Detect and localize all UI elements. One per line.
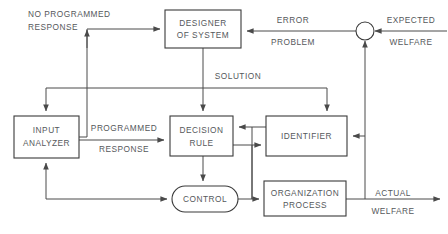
- edges-layer: [46, 29, 447, 199]
- edge-solution-bus-to-input-analyzer: [46, 88, 327, 111]
- decision-rule-box[interactable]: [170, 116, 233, 156]
- control-label: CONTROL: [183, 194, 227, 204]
- node-decision-rule[interactable]: DECISION RULE: [170, 116, 233, 156]
- designer-of-system-box[interactable]: [165, 10, 241, 48]
- decision-rule-label-line2: RULE: [189, 138, 213, 148]
- node-input-analyzer[interactable]: INPUT ANALYZER: [14, 116, 79, 158]
- node-identifier[interactable]: IDENTIFIER: [266, 116, 347, 156]
- label-expected-welfare-line2: WELFARE: [389, 37, 432, 47]
- node-control[interactable]: CONTROL: [172, 186, 238, 212]
- decision-rule-label-line1: DECISION: [179, 125, 223, 135]
- label-actual-welfare-line2: WELFARE: [371, 206, 414, 216]
- input-analyzer-label-line2: ANALYZER: [23, 138, 70, 148]
- label-no-programmed-response-line2: RESPONSE: [28, 22, 78, 32]
- designer-of-system-label-line1: DESIGNER: [179, 18, 226, 28]
- node-designer-of-system[interactable]: DESIGNER OF SYSTEM: [165, 10, 241, 48]
- identifier-label-line1: IDENTIFIER: [281, 131, 332, 141]
- label-actual-welfare-line1: ACTUAL: [375, 188, 411, 198]
- input-analyzer-box[interactable]: [14, 116, 79, 158]
- label-expected-welfare-line1: EXPECTED: [387, 15, 436, 25]
- label-programmed-response-line2: RESPONSE: [99, 144, 149, 154]
- node-organization-process[interactable]: ORGANIZATION PROCESS: [264, 181, 346, 216]
- summing-junction-circle[interactable]: [356, 22, 374, 40]
- organization-process-label-line1: ORGANIZATION: [271, 188, 340, 198]
- node-summing-junction[interactable]: [356, 22, 374, 40]
- designer-of-system-label-line2: OF SYSTEM: [177, 30, 229, 40]
- label-error-line1: ERROR: [277, 15, 309, 25]
- diagram-svg: DESIGNER OF SYSTEM INPUT ANALYZER DECISI…: [0, 0, 448, 234]
- organization-process-label-line2: PROCESS: [283, 200, 327, 210]
- edge-input-analyzer-to-designer: [79, 29, 160, 137]
- label-no-programmed-response-line1: NO PROGRAMMED: [28, 9, 111, 19]
- label-solution: SOLUTION: [215, 71, 261, 81]
- label-problem-line2: PROBLEM: [271, 37, 315, 47]
- label-programmed-response-line1: PROGRAMMED: [91, 123, 157, 133]
- block-diagram-canvas: DESIGNER OF SYSTEM INPUT ANALYZER DECISI…: [0, 0, 448, 234]
- input-analyzer-label-line1: INPUT: [33, 125, 60, 135]
- organization-process-box[interactable]: [264, 181, 346, 216]
- nodes-layer: DESIGNER OF SYSTEM INPUT ANALYZER DECISI…: [14, 10, 374, 216]
